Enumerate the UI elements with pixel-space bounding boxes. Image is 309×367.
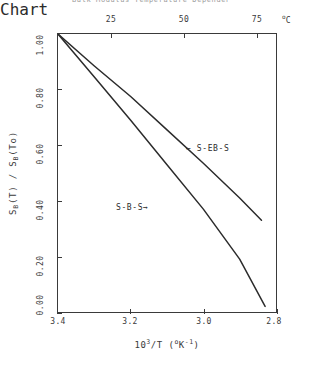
- tick-label-top-50: 50: [179, 16, 189, 24]
- tick-label-left-0-60: 0.60: [37, 144, 45, 165]
- curve-s-b-s: [58, 34, 265, 306]
- tick-left-0-00: [57, 313, 62, 314]
- tick-bottom-3-2: [130, 309, 131, 314]
- tick-bottom-3-0: [204, 309, 205, 314]
- tick-left-1-00: [57, 33, 62, 34]
- tick-label-left-0-80: 0.80: [37, 88, 45, 109]
- tick-label-bottom-3-0: 3.0: [196, 318, 212, 326]
- tick-left-0-80: [57, 89, 62, 90]
- figure-container: Bulk Modulus Temperature Dependence 25 5…: [0, 0, 309, 367]
- x-title-unit-exponent: -1: [185, 338, 194, 346]
- tick-label-bottom-2-8: 2.8: [266, 318, 282, 326]
- figure-title-text: Bulk Modulus Temperature Dependence: [72, 0, 228, 4]
- celsius-letter: C: [286, 16, 291, 25]
- tick-top-50: [184, 33, 185, 38]
- tick-label-left-0-00: 0.00: [37, 295, 45, 316]
- y-title-mid: (T) /: [8, 167, 18, 204]
- tick-top-75: [257, 33, 258, 38]
- annotation-s-b-s-label: S-B-S: [116, 203, 143, 212]
- tick-label-left-0-20: 0.20: [37, 256, 45, 277]
- x-title-base: 10: [134, 340, 146, 350]
- tick-label-bottom-3-4: 3.4: [50, 318, 66, 326]
- tick-left-0-40: [57, 201, 62, 202]
- y-title-end: (To): [8, 131, 18, 156]
- axis-unit-celsius: oC: [282, 13, 290, 25]
- annotation-s-eb-s-label: S-EB-S: [197, 144, 230, 153]
- x-title-close-paren: ): [194, 340, 200, 350]
- tick-label-left-1-00: 1.00: [37, 35, 45, 56]
- arrow-right-icon: →: [143, 203, 148, 212]
- tick-left-0-60: [57, 145, 62, 146]
- y-title-s2: S: [8, 161, 18, 167]
- tick-label-top-25: 25: [106, 16, 116, 24]
- y-axis-title: SB(T) / SB(To): [8, 131, 21, 215]
- tick-label-left-0-40: 0.40: [37, 200, 45, 221]
- y-title-sub2: B: [12, 156, 20, 161]
- figure-title-clipped: Bulk Modulus Temperature Dependence: [72, 0, 228, 5]
- tick-left-0-20: [57, 257, 62, 258]
- tick-label-top-75: 75: [252, 16, 262, 24]
- plot-area: [57, 33, 277, 313]
- y-title-sub1: B: [12, 204, 20, 209]
- arrow-left-icon: ←: [186, 144, 191, 153]
- annotation-s-eb-s: ← S-EB-S: [186, 144, 229, 153]
- annotation-s-b-s: S-B-S→: [116, 203, 149, 212]
- x-title-rest: /T (: [151, 340, 175, 350]
- y-title-s1: S: [8, 209, 18, 215]
- curve-s-eb-s: [58, 34, 261, 220]
- tick-label-bottom-3-2: 3.2: [122, 318, 138, 326]
- curves-svg: [58, 34, 276, 312]
- tick-top-25: [111, 33, 112, 38]
- tick-bottom-2-8: [277, 309, 278, 314]
- x-axis-title: 103/T (oK-1): [134, 338, 199, 350]
